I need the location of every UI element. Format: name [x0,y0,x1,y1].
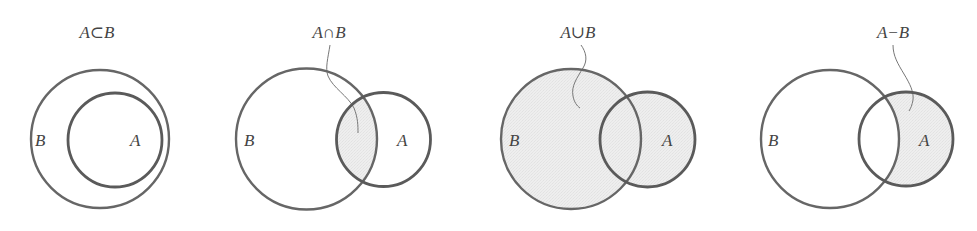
panel-title: A⊂B [78,23,115,42]
set-b-label: B [244,131,255,150]
panel-subset: A⊂B B A [31,23,169,208]
set-a-circle [68,93,162,187]
set-b-circle [31,70,169,208]
set-a-label: A [661,131,673,150]
venn-diagram-figure: A⊂B B A A∩B B A A∪B B A A−B B A [0,0,977,231]
panel-union: A∪B B A [501,23,695,209]
panel-title: A∩B [311,23,346,42]
set-a-label: A [129,131,141,150]
panel-difference: A−B B A [761,23,953,208]
set-b-label: B [768,131,779,150]
set-b-label: B [35,131,46,150]
set-a-label: A [918,131,930,150]
panel-title: A−B [876,23,910,42]
set-b-label: B [509,131,520,150]
panel-title: A∪B [559,23,596,42]
panel-intersection: A∩B B A [236,23,431,210]
set-a-label: A [396,131,408,150]
